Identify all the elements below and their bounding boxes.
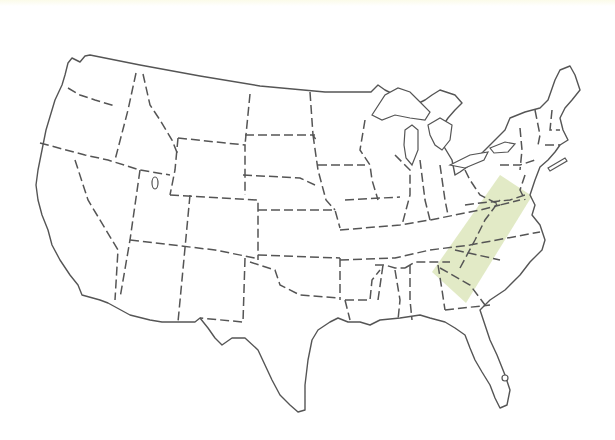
great-salt-lake (152, 177, 158, 189)
highlight-region (432, 175, 532, 303)
lake-superior (372, 88, 430, 120)
lake-michigan (404, 125, 418, 165)
lake-erie (450, 152, 488, 168)
lake-huron (428, 118, 452, 150)
state-borders (40, 73, 560, 322)
lake-okeechobee (502, 375, 508, 381)
lake-ontario (490, 142, 515, 153)
long-island (548, 158, 567, 171)
us-map (0, 0, 615, 440)
